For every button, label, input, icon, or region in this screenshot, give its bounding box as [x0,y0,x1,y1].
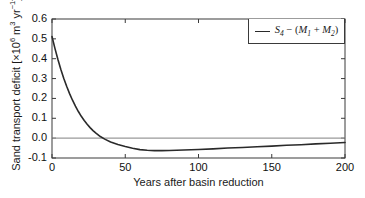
y-axis-label-exponent-6: 6 [8,38,17,42]
x-tick-label-150: 150 [252,161,292,173]
x-tick-label-50: 50 [105,161,145,173]
y-axis-label: Sand transport deficit [×106 m3 yr−1] [8,1,22,171]
x-axis-label: Years after basin reduction [52,176,345,188]
y-axis-label-exponent-minus1: −1 [8,1,17,10]
x-tick-label-100: 100 [179,161,219,173]
legend-operator-minus: − ( [284,24,299,35]
legend-symbol-m2: M [322,24,331,35]
legend-line-sample [255,31,270,32]
legend-symbol-m1: M [299,24,308,35]
x-tick-label-200: 200 [325,161,365,173]
legend-entry-label: S4 − (M1 + M2) [275,24,338,38]
y-axis-label-prefix: Sand transport deficit [×10 [10,42,22,171]
legend-operator-plus: + [311,24,322,35]
x-tick-label-0: 0 [32,161,72,173]
legend-box[interactable]: S4 − (M1 + M2) [248,19,345,44]
y-axis-label-unit: yr [10,9,22,21]
figure: -0.10.00.10.20.30.40.50.6 050100150200 Y… [0,0,365,198]
y-axis-label-exponent-3: 3 [8,22,17,26]
y-axis-label-suffix: ] [10,0,22,1]
y-axis-label-mid: m [10,26,22,38]
legend-close-paren: ) [335,24,339,35]
